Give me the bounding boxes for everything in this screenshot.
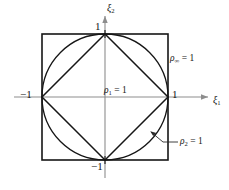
y-axis-label: ξ2 — [107, 3, 115, 13]
l2-norm-annotation: ρ2 = 1 — [180, 137, 203, 147]
l1-symbol: ρ — [104, 85, 109, 95]
l2-value: 1 — [198, 136, 203, 146]
tick-label-y-negative-one: −1 — [91, 161, 103, 172]
norm-unit-ball-figure: 1 −1 1 −1 ξ1 ξ2 ρ∞ = 1 ρ1 = 1 ρ2 = 1 — [0, 0, 229, 190]
x-axis-arrowhead — [201, 94, 208, 99]
linf-value: 1 — [189, 53, 194, 63]
linf-symbol: ρ — [170, 53, 175, 63]
linf-equals: = — [182, 53, 187, 63]
l2-subscript: 2 — [185, 140, 188, 147]
linf-norm-annotation: ρ∞ = 1 — [170, 54, 194, 64]
linf-subscript: ∞ — [175, 57, 180, 64]
x-axis-label: ξ1 — [213, 95, 221, 105]
l1-equals: = — [114, 85, 119, 95]
tick-label-y-positive-one: 1 — [95, 21, 101, 32]
l1-norm-annotation: ρ1 = 1 — [104, 86, 127, 96]
l1-value: 1 — [122, 85, 127, 95]
l2-symbol: ρ — [180, 136, 185, 146]
y-axis-arrowhead — [102, 16, 107, 23]
x-axis-label-subscript: 1 — [217, 99, 220, 106]
tick-label-x-negative-one: −1 — [20, 89, 32, 100]
y-axis-label-subscript: 2 — [111, 7, 114, 14]
l2-equals: = — [190, 136, 195, 146]
tick-label-x-positive-one: 1 — [172, 89, 178, 100]
l1-subscript: 1 — [109, 89, 112, 96]
